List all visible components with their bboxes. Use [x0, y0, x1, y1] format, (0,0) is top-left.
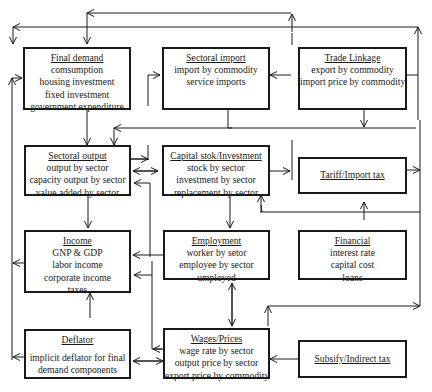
income-line: corporate income: [26, 272, 129, 284]
sectoral-output-line: output by sector: [26, 162, 129, 174]
capital-stock-line: stock by sector: [164, 162, 268, 174]
box-wages-prices: Wages/Prices wage rate by sector output …: [163, 328, 270, 379]
employment-line: worker by setor: [165, 247, 268, 259]
box-subsidy-indirect-tax: Subsify/Indirect tax: [298, 340, 407, 378]
box-trade-linkage: Trade Linkage export by commodity import…: [298, 47, 407, 110]
box-sectoral-import: Sectoral import import by commodity serv…: [162, 47, 270, 110]
box-sectoral-output: Sectoral output output by sector capacit…: [24, 145, 131, 196]
final-demand-line: government expenditure: [25, 101, 129, 113]
wages-prices-title: Wages/Prices: [165, 333, 268, 345]
final-demand-title: Final demand: [25, 52, 129, 64]
box-capital-stock-investment: Capital stok/Investment stock by sector …: [162, 145, 270, 196]
sectoral-import-title: Sectoral import: [164, 52, 268, 64]
model-diagram: Final demand comsumption housing investm…: [0, 0, 432, 392]
deflator-line: implicit deflator for final: [26, 352, 129, 364]
employment-line: umployed: [165, 272, 268, 284]
box-final-demand: Final demand comsumption housing investm…: [23, 47, 131, 110]
employment-line: employee by sector: [165, 259, 268, 271]
box-income: Income GNP & GDP labor income corporate …: [24, 230, 131, 293]
wages-prices-line: wage rate by sector: [165, 345, 268, 357]
sectoral-output-line: capacity output by sector: [26, 174, 129, 186]
box-tariff-import-tax: Tariff/Import tax: [298, 157, 407, 194]
final-demand-line: fixed investment: [25, 89, 129, 101]
sectoral-output-line: value added by sector: [26, 187, 129, 199]
income-line: taxes: [26, 284, 129, 296]
deflator-line: demand components: [26, 364, 129, 376]
final-demand-line: comsumption: [25, 64, 129, 76]
trade-linkage-line: import price by commodity: [300, 76, 405, 88]
income-line: GNP & GDP: [26, 247, 129, 259]
subsidy-title: Subsify/Indirect tax: [300, 353, 405, 365]
sectoral-output-title: Sectoral output: [26, 150, 129, 162]
capital-stock-line: replacement by sector: [164, 187, 268, 199]
deflator-title: Deflator: [26, 334, 129, 346]
box-employment: Employment worker by setor employee by s…: [163, 230, 270, 280]
income-line: labor income: [26, 259, 129, 271]
financial-line: capital cost: [300, 259, 405, 271]
capital-stock-title: Capital stok/Investment: [164, 150, 268, 162]
income-title: Income: [26, 235, 129, 247]
wages-prices-line: export price by commodity: [165, 370, 268, 382]
sectoral-import-line: import by commodity: [164, 64, 268, 76]
capital-stock-line: investment by sector: [164, 174, 268, 186]
financial-title: Financial: [300, 235, 405, 247]
employment-title: Employment: [165, 235, 268, 247]
wages-prices-line: output price by sector: [165, 357, 268, 369]
trade-linkage-line: export by commodity: [300, 64, 405, 76]
financial-line: interest rate: [300, 247, 405, 259]
final-demand-line: housing investment: [25, 76, 129, 88]
trade-linkage-title: Trade Linkage: [300, 52, 405, 64]
box-financial: Financial interest rate capital cost loa…: [298, 230, 407, 280]
tariff-title: Tariff/Import tax: [300, 169, 405, 181]
financial-line: loans: [300, 272, 405, 284]
sectoral-import-line: service imports: [164, 76, 268, 88]
box-deflator: Deflator implicit deflator for final dem…: [24, 329, 131, 379]
